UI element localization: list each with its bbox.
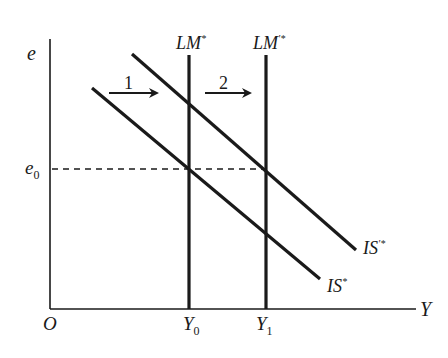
y0-label: Y0 <box>183 313 200 338</box>
x-axis-label: Y <box>420 298 433 320</box>
arrow-1-label: 1 <box>124 73 133 93</box>
origin-label: O <box>43 313 57 334</box>
e0-label: e0 <box>25 157 39 182</box>
is-prime-star-label: IS'* <box>362 238 385 258</box>
is-star-label: IS* <box>326 276 347 296</box>
is-prime-star-curve <box>132 54 356 250</box>
islm-diagram: e Y O e0 LM* LM'* IS* IS'* 1 2 Y0 Y1 <box>0 0 448 358</box>
y1-label: Y1 <box>256 313 273 338</box>
arrow-2-label: 2 <box>219 73 228 93</box>
lm-star-label: LM* <box>175 33 206 53</box>
y-axis-label: e <box>27 42 36 64</box>
lm-prime-star-label: LM'* <box>252 33 285 53</box>
